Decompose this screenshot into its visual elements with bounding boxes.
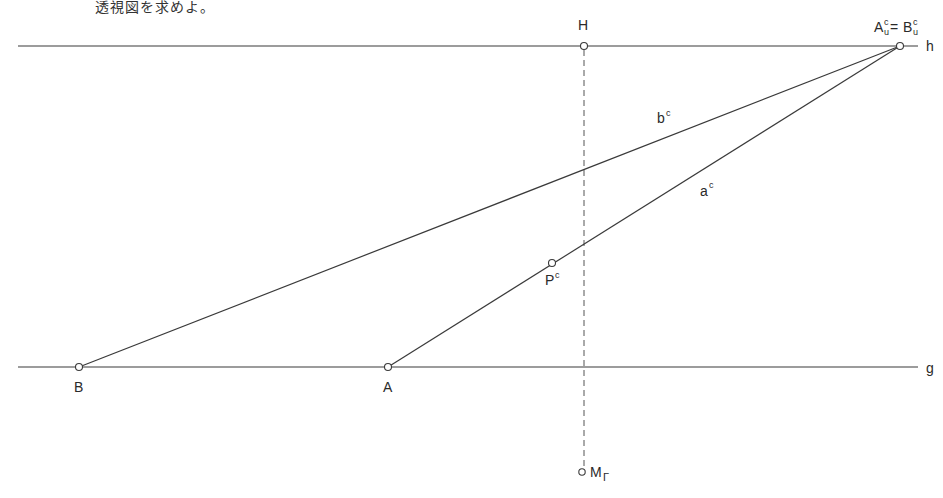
svg-text:c: c bbox=[913, 17, 918, 27]
svg-text:=: = bbox=[890, 19, 898, 35]
label-h: h bbox=[926, 38, 934, 54]
perspective-diagram: H h g B A A c u = B c u b c a c P c M Γ bbox=[0, 0, 943, 498]
svg-text:u: u bbox=[884, 27, 889, 37]
svg-text:A: A bbox=[874, 19, 884, 35]
point-H bbox=[581, 43, 588, 50]
point-A bbox=[385, 364, 392, 371]
label-H: H bbox=[578, 17, 588, 33]
svg-text:u: u bbox=[913, 27, 918, 37]
svg-text:B: B bbox=[903, 19, 912, 35]
line-ac bbox=[388, 46, 900, 367]
svg-text:c: c bbox=[555, 270, 560, 280]
svg-text:c: c bbox=[884, 17, 889, 27]
label-Pc: P c bbox=[545, 270, 560, 288]
svg-text:c: c bbox=[666, 108, 671, 118]
point-B bbox=[76, 364, 83, 371]
point-M bbox=[579, 469, 585, 475]
svg-text:M: M bbox=[590, 464, 602, 480]
label-B: B bbox=[74, 379, 83, 395]
svg-text:b: b bbox=[657, 110, 665, 126]
label-ac: a c bbox=[700, 180, 714, 199]
svg-text:c: c bbox=[709, 180, 714, 190]
line-bc bbox=[79, 46, 900, 367]
label-g: g bbox=[926, 360, 934, 376]
label-bc: b c bbox=[657, 108, 671, 126]
svg-text:P: P bbox=[545, 272, 554, 288]
label-vanishing-point: A c u = B c u bbox=[874, 17, 918, 37]
point-Pc bbox=[549, 260, 556, 267]
label-A: A bbox=[383, 379, 393, 395]
label-M: M Γ bbox=[590, 464, 609, 483]
svg-text:a: a bbox=[700, 183, 708, 199]
point-vanishing bbox=[897, 43, 904, 50]
svg-text:Γ: Γ bbox=[603, 471, 609, 483]
